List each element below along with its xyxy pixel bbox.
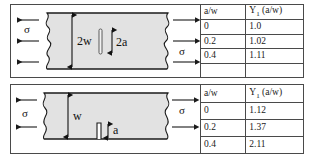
edge-crack-diagram: σ σ w a: [11, 85, 201, 153]
table-row: 0.2 1.02: [201, 34, 304, 48]
table-row: 0 1.0: [201, 20, 304, 34]
cell-y1: 1.37: [246, 120, 304, 137]
header-aw: a/w: [201, 5, 246, 20]
stress-label-left: σ: [24, 23, 30, 35]
header-aw: a/w: [201, 85, 246, 103]
stress-label-right: σ: [179, 104, 185, 116]
table-filler-row: [201, 63, 304, 77]
cell-aw: 0.2: [201, 34, 246, 48]
edge-crack-table-area: a/w Y1 (a/w) 0 1.12 0.2 1.37 0.4 2.11: [200, 84, 304, 154]
plate-outline: [43, 93, 169, 139]
center-crack-slit: [99, 29, 102, 54]
table-row: 0.4 1.11: [201, 49, 304, 63]
table-header-row: a/w Y1 (a/w): [201, 5, 304, 20]
center-crack-table: a/w Y1 (a/w) 0 1.0 0.2 1.02 0.4 1.11: [200, 4, 304, 78]
width-label: w: [73, 109, 82, 123]
panel-edge-crack: σ σ w a a/w Y: [10, 84, 304, 154]
table-row: 0 1.12: [201, 103, 304, 120]
table-row: 0.2 1.37: [201, 120, 304, 137]
cell-aw: 0.2: [201, 120, 246, 137]
cell-filler: [201, 63, 246, 77]
panel-center-crack: σ σ 2w 2a a/w: [10, 4, 304, 78]
fracture-mechanics-figure: σ σ 2w 2a a/w: [0, 0, 312, 158]
cell-y1: 1.12: [246, 103, 304, 120]
cell-y1: 2.11: [246, 137, 304, 154]
crack-label: a: [113, 123, 119, 137]
table-header-row: a/w Y1 (a/w): [201, 85, 304, 103]
center-crack-diagram: σ σ 2w 2a: [11, 5, 201, 77]
stress-label-right: σ: [179, 45, 185, 57]
center-crack-table-area: a/w Y1 (a/w) 0 1.0 0.2 1.02 0.4 1.11: [200, 4, 304, 78]
cell-aw: 0.4: [201, 49, 246, 63]
cell-aw: 0: [201, 103, 246, 120]
plate-outline: [46, 13, 169, 69]
header-y1-tail: (a/w): [260, 5, 282, 15]
header-y1: Y1 (a/w): [246, 5, 304, 20]
edge-crack-table: a/w Y1 (a/w) 0 1.12 0.2 1.37 0.4 2.11: [200, 84, 304, 154]
header-y1-tail: (a/w): [260, 87, 282, 97]
header-y1: Y1 (a/w): [246, 85, 304, 103]
cell-aw: 0.4: [201, 137, 246, 154]
center-crack-svg: σ σ 2w 2a: [11, 5, 201, 77]
width-label: 2w: [77, 34, 92, 48]
cell-y1: 1.11: [246, 49, 304, 63]
cell-y1: 1.0: [246, 20, 304, 34]
cell-y1: 1.02: [246, 34, 304, 48]
edge-crack-svg: σ σ w a: [11, 85, 201, 153]
cell-aw: 0: [201, 20, 246, 34]
table-row: 0.4 2.11: [201, 137, 304, 154]
stress-label-left: σ: [22, 107, 28, 119]
edge-crack-notch: [97, 123, 101, 139]
crack-label: 2a: [116, 35, 128, 49]
cell-filler: [246, 63, 304, 77]
